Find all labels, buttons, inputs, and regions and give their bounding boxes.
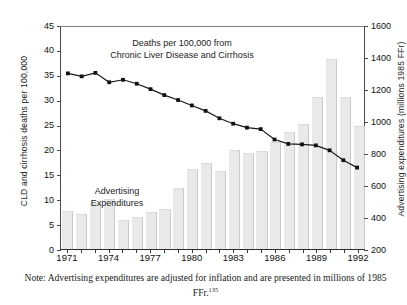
right-tickmark <box>364 58 368 59</box>
chart-footnote: Note: Advertising expenditures are adjus… <box>18 272 393 298</box>
x-tick-label: 1986 <box>264 252 285 263</box>
right-tickmark <box>364 186 368 187</box>
line-marker <box>66 71 70 75</box>
footnote-text: Note: Advertising expenditures are adjus… <box>24 272 386 298</box>
right-tick-label: 400 <box>371 214 386 223</box>
line-marker <box>190 104 194 108</box>
left-tick-label: 10 <box>44 196 54 205</box>
line-marker <box>217 116 221 120</box>
line-marker <box>135 82 139 86</box>
left-tick-label: 40 <box>44 46 54 55</box>
right-tick-label: 800 <box>371 150 386 159</box>
line-marker <box>355 166 359 170</box>
line-marker <box>328 148 332 152</box>
line-marker <box>314 144 318 148</box>
line-marker <box>80 74 84 78</box>
right-tick-label: 1600 <box>371 22 391 31</box>
line-marker <box>107 80 111 84</box>
right-tickmark <box>364 26 368 27</box>
left-tick-label: 35 <box>44 71 54 80</box>
line-marker <box>286 142 290 146</box>
line-marker <box>300 143 304 147</box>
x-axis-labels: 19711974197719801983198619891992 <box>60 252 365 266</box>
right-tickmark <box>364 154 368 155</box>
line-marker <box>162 93 166 97</box>
left-tick-label: 45 <box>44 22 54 31</box>
right-tickmark <box>364 90 368 91</box>
right-tick-label: 1000 <box>371 118 391 127</box>
left-tick-label: 25 <box>44 121 54 130</box>
x-tick-label: 1992 <box>347 252 368 263</box>
left-axis-ticks: 454035302520151050 <box>22 0 56 305</box>
line-marker <box>231 122 235 126</box>
x-tick-label: 1977 <box>140 252 161 263</box>
left-tick-label: 30 <box>44 96 54 105</box>
right-tick-label: 1400 <box>371 54 391 63</box>
right-axis-title: Advertising expenditures (millions 1985 … <box>396 39 406 219</box>
right-tickmark <box>364 250 368 251</box>
x-tick-label: 1989 <box>306 252 327 263</box>
line-marker <box>149 87 153 91</box>
left-tick-label: 0 <box>49 246 54 255</box>
x-tick-label: 1983 <box>223 252 244 263</box>
right-tickmark <box>364 218 368 219</box>
line-marker <box>121 78 125 82</box>
line-path <box>68 73 357 168</box>
line-marker <box>94 71 98 75</box>
line-marker <box>259 127 263 131</box>
right-tick-label: 200 <box>371 246 386 255</box>
left-tick-label: 5 <box>49 221 54 230</box>
right-tick-label: 600 <box>371 182 386 191</box>
line-marker <box>341 158 345 162</box>
left-tick-label: 15 <box>44 171 54 180</box>
line-marker <box>245 126 249 130</box>
line-marker <box>273 138 277 142</box>
left-tick-label: 20 <box>44 146 54 155</box>
right-tickmark <box>364 122 368 123</box>
line-marker <box>204 109 208 113</box>
line-marker <box>176 98 180 102</box>
right-tick-label: 1200 <box>371 86 391 95</box>
x-tick-label: 1980 <box>181 252 202 263</box>
bar-series-annotation: Advertising Expenditures <box>62 186 172 209</box>
x-tick-label: 1971 <box>56 252 77 263</box>
footnote-superscript: 135 <box>209 286 219 293</box>
line-series-annotation: Deaths per 100,000 from Chronic Liver Di… <box>82 38 282 61</box>
chart-figure: CLD and cirrhosis deaths per 100,000 454… <box>0 0 407 305</box>
x-tick-label: 1974 <box>98 252 119 263</box>
